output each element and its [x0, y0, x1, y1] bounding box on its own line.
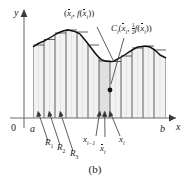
- origin-label: 0: [11, 123, 16, 133]
- region-label-r2-sub: 2: [63, 148, 66, 154]
- y-axis: [21, 9, 28, 128]
- x-mid-base: x: [100, 144, 104, 153]
- centroid-fraction: 12: [132, 22, 135, 36]
- x-curr-sub: i: [123, 140, 125, 146]
- region-label-r1-sub: 1: [51, 143, 54, 149]
- partition-label-x-mid: xi: [100, 144, 106, 155]
- top-point-label: (xi, f(xi)): [64, 9, 94, 20]
- centroid-fraction-numerator: 1: [132, 22, 135, 28]
- centroid-inner-xbar: x: [140, 24, 144, 33]
- region-label-r2: R2: [57, 143, 65, 154]
- riemann-sum-diagram: [0, 0, 190, 181]
- x-prev-sub: i−1: [87, 140, 95, 146]
- x-mid-sub: i: [104, 149, 106, 155]
- figure-container: y x 0 a b R1 R2 R3 (xi, f(xi)) Ci(xi, 12…: [0, 0, 190, 181]
- partition-label-x-curr: xi: [119, 135, 125, 146]
- figure-caption: (b): [0, 163, 190, 175]
- b-label: b: [160, 124, 165, 134]
- partition-label-x-prev: xi−1: [83, 135, 95, 146]
- top-point-close-paren: ): [91, 8, 94, 18]
- centroid-label: Ci(xi, 12f(xi)): [111, 22, 152, 36]
- a-label: a: [30, 124, 35, 134]
- x-axis-label: x: [176, 122, 180, 132]
- centroid-fraction-denominator: 2: [132, 28, 135, 35]
- region-label-r1: R1: [45, 138, 53, 149]
- centroid-xbar: x: [122, 24, 126, 33]
- top-point-xbar: x: [67, 9, 71, 18]
- centroid-dot: [108, 88, 113, 93]
- centroid-close-paren: ): [149, 23, 152, 33]
- y-axis-label: y: [14, 8, 18, 18]
- region-label-r3-sub: 3: [76, 154, 79, 160]
- top-point-inner-xbar: x: [83, 9, 87, 18]
- region-label-r3: R3: [70, 149, 78, 160]
